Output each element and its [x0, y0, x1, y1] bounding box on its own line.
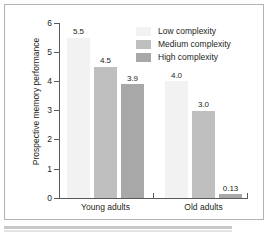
legend: Low complexity Medium complexity High co… — [136, 26, 256, 65]
bar-value-old-low: 4.0 — [165, 72, 188, 80]
bar-value-young-low: 5.5 — [67, 28, 90, 36]
bar-value-old-high: 0.13 — [215, 185, 246, 193]
legend-swatch-medium-complexity — [136, 40, 151, 49]
bar-value-old-medium: 3.0 — [192, 101, 215, 109]
figure-panel: Prospective memory performance 0 1 2 3 4… — [4, 4, 264, 220]
page-bottom-band-secondary — [4, 230, 232, 232]
legend-label-medium-complexity: Medium complexity — [158, 39, 231, 50]
bar-old-low-complexity[interactable] — [165, 81, 188, 198]
bar-young-high-complexity[interactable] — [121, 84, 144, 198]
legend-label-high-complexity: High complexity — [158, 52, 218, 63]
legend-swatch-low-complexity — [136, 27, 151, 36]
page-bottom-band — [4, 226, 232, 229]
bar-old-medium-complexity[interactable] — [192, 111, 215, 199]
bar-chart-plot-area: Prospective memory performance 0 1 2 3 4… — [5, 5, 265, 221]
bar-old-high-complexity[interactable] — [219, 194, 242, 198]
legend-label-low-complexity: Low complexity — [158, 26, 216, 37]
legend-item-high-complexity[interactable]: High complexity — [136, 52, 256, 64]
bar-young-medium-complexity[interactable] — [94, 67, 117, 198]
x-axis-label-old-adults: Old adults — [165, 202, 242, 212]
legend-swatch-high-complexity — [136, 53, 151, 62]
x-axis-label-young-adults: Young adults — [67, 202, 144, 212]
legend-item-low-complexity[interactable]: Low complexity — [136, 26, 256, 38]
bar-value-young-high: 3.9 — [121, 75, 144, 83]
bar-value-young-medium: 4.5 — [94, 57, 117, 65]
bar-young-low-complexity[interactable] — [67, 38, 90, 198]
y-tick-0 — [54, 198, 59, 199]
legend-item-medium-complexity[interactable]: Medium complexity — [136, 39, 256, 51]
